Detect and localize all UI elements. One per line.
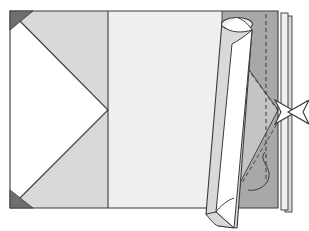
origami-diagram-canvas [0,0,309,231]
origami-diagram-figure [0,0,309,231]
